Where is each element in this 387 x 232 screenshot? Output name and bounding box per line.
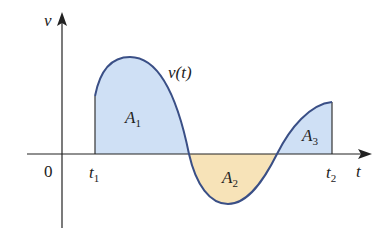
x-axis-label: t <box>356 162 362 181</box>
curve-label: v(t) <box>168 63 192 82</box>
tick-t2-label: t2 <box>326 163 336 184</box>
tick-t1-label: t1 <box>89 163 99 184</box>
origin-label: 0 <box>44 162 53 181</box>
velocity-area-diagram: v t 0 v(t) t1 t2 A1 A2 A3 <box>0 0 387 232</box>
y-axis-label: v <box>44 11 52 30</box>
